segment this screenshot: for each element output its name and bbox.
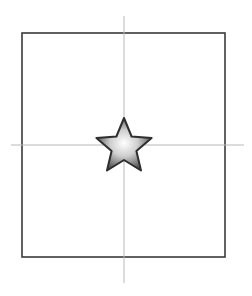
drawing-canvas	[0, 0, 252, 296]
